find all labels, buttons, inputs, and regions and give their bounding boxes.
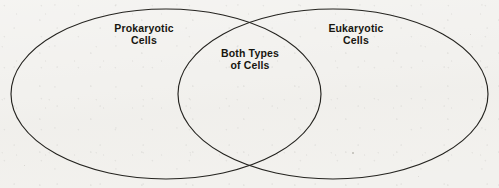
venn-shapes (0, 0, 499, 188)
label-both-types-of-cells: Both Types of Cells (194, 48, 306, 71)
label-eukaryotic-cells: Eukaryotic Cells (300, 23, 412, 46)
venn-diagram-canvas: Prokaryotic Cells Eukaryotic Cells Both … (0, 0, 499, 188)
label-prokaryotic-cells: Prokaryotic Cells (88, 23, 200, 46)
